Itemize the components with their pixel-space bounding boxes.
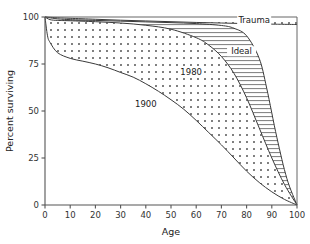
x-tick-label: 20 xyxy=(90,210,101,220)
survival-curve-figure: 01020304050607080901000255075100AgePerce… xyxy=(0,0,310,244)
x-tick-label: 40 xyxy=(140,210,151,220)
annotation-label: Trauma xyxy=(237,15,270,25)
chart-canvas: 01020304050607080901000255075100AgePerce… xyxy=(0,0,310,244)
x-tick-label: 0 xyxy=(42,210,47,220)
x-tick-label: 100 xyxy=(289,210,305,220)
annotation-trauma: Trauma xyxy=(237,15,271,25)
x-tick-label: 60 xyxy=(191,210,202,220)
y-tick-label: 0 xyxy=(34,200,39,210)
y-tick-label: 75 xyxy=(28,59,39,69)
annotation-label: Ideal xyxy=(231,46,252,56)
x-tick-label: 30 xyxy=(115,210,126,220)
x-axis-title: Age xyxy=(162,226,181,237)
x-tick-label: 70 xyxy=(216,210,227,220)
annotation-ideal: Ideal xyxy=(227,46,256,56)
annotation-1900: 1900 xyxy=(134,99,158,109)
x-tick-label: 50 xyxy=(166,210,177,220)
y-axis-title: Percent surviving xyxy=(4,70,15,152)
annotation-1980: 1980 xyxy=(179,67,203,77)
y-tick-label: 100 xyxy=(23,12,39,22)
x-tick-label: 90 xyxy=(266,210,277,220)
annotation-label: 1900 xyxy=(135,99,157,109)
x-tick-label: 10 xyxy=(65,210,76,220)
x-tick-label: 80 xyxy=(241,210,252,220)
fill-bands xyxy=(45,17,297,205)
y-tick-label: 50 xyxy=(28,106,39,116)
y-tick-label: 25 xyxy=(28,153,39,163)
annotation-label: 1980 xyxy=(180,67,202,77)
